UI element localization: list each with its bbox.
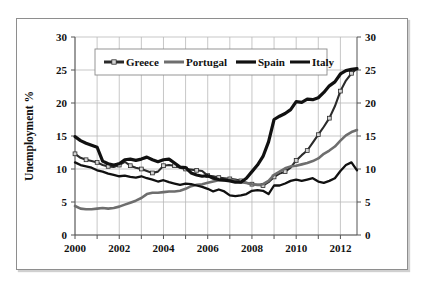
series-line-portugal (75, 130, 357, 209)
series-marker-greece (139, 167, 143, 171)
y-axis-title: Unemployment % (23, 91, 36, 181)
chart-frame: 0055101015152020252530302000200220042006… (16, 18, 408, 270)
y-tick-label-left: 25 (56, 64, 68, 76)
y-tick-label-right: 30 (365, 31, 377, 43)
y-tick-label-right: 5 (365, 196, 371, 208)
series-marker-greece (316, 133, 320, 137)
chart-figure: 0055101015152020252530302000200220042006… (0, 0, 437, 289)
series-line-spain (75, 69, 357, 183)
series-marker-greece (128, 164, 132, 168)
y-tick-label-right: 15 (365, 130, 377, 142)
y-axis-title-text: Unemployment % (23, 91, 36, 181)
x-tick-label: 2006 (197, 242, 220, 254)
x-tick-label: 2002 (108, 242, 131, 254)
y-tick-label-right: 0 (365, 229, 371, 241)
y-tick-label-left: 5 (62, 196, 68, 208)
series-marker-greece (84, 158, 88, 162)
y-tick-label-right: 20 (365, 97, 377, 109)
series-marker-greece (95, 161, 99, 165)
x-tick-label: 2012 (329, 242, 352, 254)
series-marker-greece (327, 116, 331, 120)
series-marker-greece (151, 171, 155, 175)
y-tick-label-left: 20 (56, 97, 68, 109)
series-marker-greece (195, 168, 199, 172)
series-marker-greece (350, 71, 354, 75)
data-series (73, 69, 357, 210)
x-tick-label: 2010 (285, 242, 308, 254)
legend-label-greece[interactable]: Greece (126, 56, 159, 68)
y-tick-label-right: 25 (365, 64, 377, 76)
series-marker-greece (162, 164, 166, 168)
y-tick-label-right: 10 (365, 163, 377, 175)
legend-label-portugal[interactable]: Portugal (186, 56, 227, 68)
legend-label-italy[interactable]: Italy (312, 56, 335, 68)
series-marker-greece (294, 159, 298, 163)
x-tick-label: 2008 (241, 242, 264, 254)
legend-label-spain[interactable]: Spain (258, 56, 285, 68)
series-marker-greece (73, 152, 77, 156)
x-tick-label: 2000 (64, 242, 87, 254)
y-tick-label-left: 30 (56, 31, 68, 43)
y-tick-label-left: 15 (56, 130, 68, 142)
x-tick-label: 2004 (152, 242, 175, 254)
legend-marker-greece (112, 60, 116, 64)
series-marker-greece (305, 149, 309, 153)
y-tick-label-left: 10 (56, 163, 68, 175)
chart-legend[interactable]: GreecePortugalSpainItaly (95, 49, 335, 75)
series-line-greece (75, 69, 357, 186)
unemployment-line-chart: 0055101015152020252530302000200220042006… (17, 19, 409, 271)
y-tick-label-left: 0 (62, 229, 68, 241)
series-marker-greece (339, 89, 343, 93)
